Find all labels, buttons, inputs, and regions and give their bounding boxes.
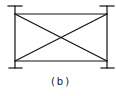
figure-caption: (b) [0,76,116,87]
